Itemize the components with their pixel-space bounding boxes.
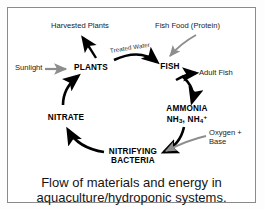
arrow-plants-to-harvested [83,38,96,58]
label-sunlight: Sunlight [15,64,42,72]
arrow-ammonia-to-bacteria [164,127,184,152]
node-label-plants: PLANTS [68,64,114,73]
bacteria-line-2: BACTERIA [100,157,166,166]
node-label-fish: FISH [155,63,185,72]
label-fish-food: Fish Food (Protein) [155,22,220,30]
ammonia-formula: NH3, NH4+ [158,114,216,124]
node-label-nitrate: NITRATE [41,114,91,123]
node-label-nitrifying-bacteria: NITRIFYING BACTERIA [100,148,166,165]
figure-page: PLANTS FISH AMMONIA NH3, NH4+ NITRIFYING… [0,0,265,210]
arrow-plants-to-fish [114,54,157,62]
arrow-bacteria-to-nitrate [68,130,104,152]
label-adult-fish: Adult Fish [199,69,233,77]
label-harvested-plants: Harvested Plants [51,22,109,30]
arrow-nitrate-to-plants [63,76,78,105]
arrow-fish-to-ammonia [182,76,193,102]
arrow-fish-food-to-fish [170,35,196,56]
oxygen-base-line-2: Base [209,138,242,147]
diagram-stage: PLANTS FISH AMMONIA NH3, NH4+ NITRIFYING… [0,0,265,175]
ammonia-name: AMMONIA [166,104,207,113]
arrow-oxygen-base-to-bacteria [166,136,206,151]
caption-line-1: Flow of materials and energy in [8,176,255,191]
figure-caption: Flow of materials and energy in aquacult… [8,176,255,206]
caption-line-2: aquaculture/hydroponic systems. [8,191,255,206]
label-oxygen-base: Oxygen + Base [209,129,242,147]
node-label-ammonia: AMMONIA NH3, NH4+ [158,105,216,124]
